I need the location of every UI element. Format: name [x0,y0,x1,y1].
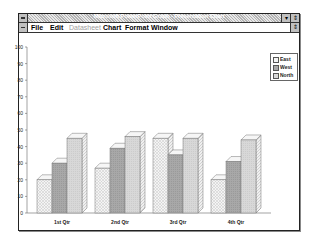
legend-swatch-east [273,57,279,63]
bar-north-4[interactable] [241,140,256,213]
menu-edit[interactable]: Edit [50,23,63,32]
menu-file[interactable]: File [31,23,43,32]
document-restore-button[interactable]: ⇕ [290,23,299,32]
menu-chart[interactable]: Chart [103,23,121,32]
x-tick-label: 2nd Qtr [100,219,140,225]
legend-item-west: West [273,64,292,71]
x-tick-label: 4th Qtr [216,219,256,225]
chart-plot [19,33,299,230]
menu-bar: File Edit Datasheet Chart Format Window … [19,23,299,33]
bar-north-2[interactable] [125,137,140,213]
bar-west-2[interactable] [110,148,125,213]
y-tick-label: 60 [9,110,23,116]
y-tick-label: 50 [9,127,23,133]
legend-swatch-west [273,65,279,71]
y-tick-label: 40 [9,144,23,150]
menu-window[interactable]: Window [151,23,178,32]
y-tick-label: 80 [9,77,23,83]
x-tick-label: 3rd Qtr [158,219,198,225]
title-bar[interactable]: Microsoft PowerPoint Graph - Presentatio… [19,14,299,23]
x-tick-label: 1st Qtr [42,219,82,225]
menu-datasheet[interactable]: Datasheet [69,23,101,32]
y-tick-label: 100 [9,44,23,50]
y-tick-label: 20 [9,177,23,183]
bar-north-3[interactable] [183,138,198,213]
restore-button[interactable]: ⇕ [290,14,299,22]
y-tick-label: 90 [9,61,23,67]
bar-east-2[interactable] [95,168,110,213]
bar-west-1[interactable] [52,163,67,213]
legend-item-north: North [273,72,293,79]
legend[interactable]: East West North [270,53,298,81]
bar-east-3[interactable] [153,138,168,213]
y-tick-label: 10 [9,193,23,199]
menu-format[interactable]: Format [125,23,149,32]
y-tick-label: 70 [9,94,23,100]
minimize-button[interactable]: ▾ [281,14,290,22]
y-tick-label: 0 [9,210,23,216]
legend-swatch-north [273,73,279,79]
bar-west-4[interactable] [226,162,241,213]
window-title: Microsoft PowerPoint Graph - Presentatio… [19,13,299,19]
chart-window: Microsoft PowerPoint Graph - Presentatio… [18,13,300,231]
bar-east-4[interactable] [211,180,226,213]
bar-east-1[interactable] [37,180,52,213]
bar-west-3[interactable] [168,155,183,213]
y-tick-label: 30 [9,160,23,166]
document-menu-icon[interactable] [19,23,28,32]
chart-area[interactable]: 0102030405060708090100 1st Qtr2nd Qtr3rd… [19,33,299,230]
bar-north-1[interactable] [67,138,82,213]
legend-item-east: East [273,56,291,63]
